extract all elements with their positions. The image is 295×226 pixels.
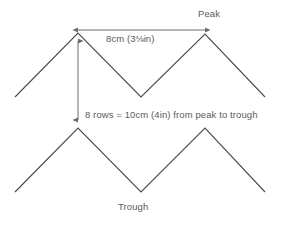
bottom-zigzag-line (15, 128, 265, 192)
zigzag-measurement-diagram: Peak 8cm (3⅛in) 8 rows = 10cm (4in) from… (0, 0, 295, 226)
peak-to-trough-measurement-label: 8 rows = 10cm (4in) from peak to trough (85, 110, 258, 120)
trough-label: Trough (118, 202, 148, 212)
peak-to-peak-measurement-label: 8cm (3⅛in) (106, 34, 155, 44)
peak-label: Peak (198, 9, 220, 19)
